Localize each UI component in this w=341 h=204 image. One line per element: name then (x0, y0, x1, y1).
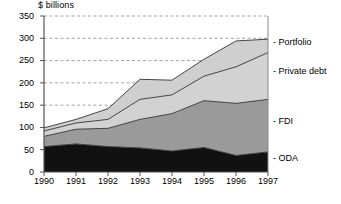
area-series-group (44, 39, 268, 172)
chart-canvas (0, 0, 341, 204)
stacked-area-chart: $ billions 350 300 250 200 150 100 50 0 … (0, 0, 341, 204)
